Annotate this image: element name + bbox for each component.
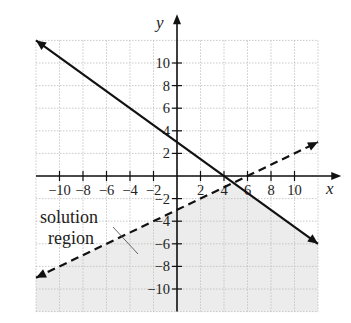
x-tick-label: 4	[220, 182, 228, 198]
x-tick-label: 10	[287, 182, 302, 198]
y-tick-label: 6	[163, 100, 170, 116]
coordinate-plane: −10−8−6−4−2246810108642−2−4−6−8−10 y x s…	[0, 0, 351, 323]
x-tick-label: −6	[99, 182, 114, 198]
annotation-solution: solution	[40, 207, 98, 227]
y-tick-label: 8	[163, 78, 170, 94]
x-tick-label: −4	[122, 182, 138, 198]
y-tick-label: −6	[155, 236, 170, 252]
annotation-region: region	[48, 228, 94, 248]
x-tick-label: 2	[197, 182, 204, 198]
x-tick-label: −8	[75, 182, 90, 198]
arrowhead-icon	[36, 40, 47, 49]
y-tick-label: −10	[147, 281, 170, 297]
x-tick-label: −10	[48, 182, 71, 198]
y-axis-label: y	[154, 13, 164, 32]
y-tick-label: 10	[156, 55, 171, 71]
y-tick-label: −2	[155, 191, 170, 207]
y-tick-label: 2	[163, 145, 170, 161]
y-tick-label: −4	[155, 213, 171, 229]
x-axis-label: x	[325, 179, 334, 198]
y-tick-label: −8	[155, 258, 170, 274]
x-tick-label: 8	[267, 182, 274, 198]
y-axis-arrow-icon	[173, 14, 181, 24]
